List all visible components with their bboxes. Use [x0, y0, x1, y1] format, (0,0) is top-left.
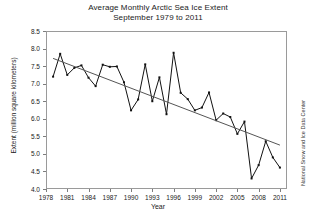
data-point-marker — [173, 52, 175, 54]
data-point-marker — [80, 64, 82, 66]
data-point-marker — [102, 64, 104, 66]
x-tick-mark — [195, 189, 196, 192]
x-tick-mark — [46, 189, 47, 192]
data-point-marker — [158, 76, 160, 78]
source-credit: National Snow and Ice Data Center — [300, 83, 306, 203]
y-tick-label: 4.0 — [10, 186, 40, 193]
data-series-layer — [46, 31, 287, 189]
data-point-marker — [166, 113, 168, 115]
data-point-marker — [272, 156, 274, 158]
data-point-marker — [258, 164, 260, 166]
x-tick-mark — [89, 189, 90, 192]
data-point-marker — [144, 63, 146, 65]
data-point-marker — [194, 109, 196, 111]
y-tick-label: 8.5 — [10, 28, 40, 35]
data-point-marker — [88, 77, 90, 79]
x-tick-mark — [259, 189, 260, 192]
chart-title: Average Monthly Arctic Sea Ice Extent — [0, 3, 316, 13]
x-tick-label: 2011 — [265, 194, 295, 201]
arctic-sea-ice-chart: Average Monthly Arctic Sea Ice Extent Se… — [0, 0, 316, 222]
data-point-marker — [279, 167, 281, 169]
x-tick-mark — [216, 189, 217, 192]
x-axis-title: Year — [0, 203, 316, 210]
data-point-marker — [265, 140, 267, 142]
data-point-marker — [109, 66, 111, 68]
x-tick-mark — [237, 189, 238, 192]
x-tick-mark — [152, 189, 153, 192]
chart-subtitle: September 1979 to 2011 — [0, 13, 316, 23]
x-tick-mark — [110, 189, 111, 192]
data-point-marker — [123, 81, 125, 83]
data-point-marker — [151, 100, 153, 102]
data-point-marker — [222, 113, 224, 115]
data-point-marker — [66, 74, 68, 76]
data-point-marker — [59, 53, 61, 55]
data-point-marker — [243, 121, 245, 123]
data-point-marker — [208, 91, 210, 93]
data-point-marker — [137, 98, 139, 100]
x-tick-mark — [280, 189, 281, 192]
data-point-marker — [52, 76, 54, 78]
data-point-marker — [180, 92, 182, 94]
data-point-marker — [95, 85, 97, 87]
data-point-marker — [201, 107, 203, 109]
chart-title-block: Average Monthly Arctic Sea Ice Extent Se… — [0, 3, 316, 23]
data-point-marker — [116, 65, 118, 67]
data-point-marker — [236, 133, 238, 135]
y-axis-title: Extent (million square kilometers) — [10, 46, 17, 166]
data-point-marker — [187, 98, 189, 100]
data-point-marker — [229, 116, 231, 118]
data-point-marker — [251, 177, 253, 179]
trend-line — [53, 58, 280, 145]
y-tick-label: 4.5 — [10, 168, 40, 175]
x-tick-mark — [67, 189, 68, 192]
x-tick-mark — [131, 189, 132, 192]
data-point-marker — [130, 109, 132, 111]
x-tick-mark — [174, 189, 175, 192]
